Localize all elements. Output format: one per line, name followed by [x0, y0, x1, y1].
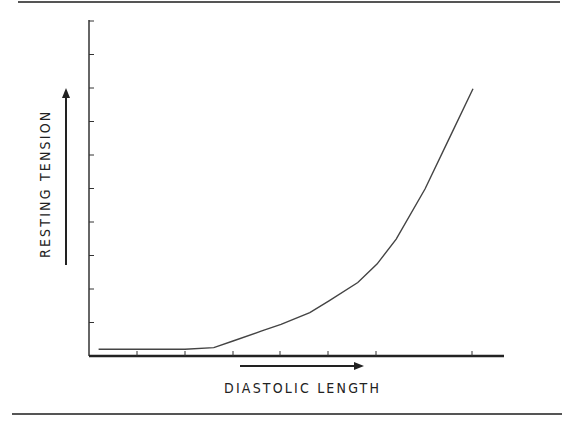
chart-canvas: RESTING TENSION DIASTOLIC LENGTH	[0, 0, 578, 425]
resting-tension-curve	[99, 89, 473, 350]
y-axis-arrow-icon	[62, 88, 70, 265]
x-axis	[89, 351, 504, 356]
y-axis-label: RESTING TENSION	[37, 110, 53, 258]
x-axis-arrow-icon	[240, 362, 364, 370]
y-axis	[89, 20, 94, 356]
x-axis-label: DIASTOLIC LENGTH	[224, 380, 381, 396]
